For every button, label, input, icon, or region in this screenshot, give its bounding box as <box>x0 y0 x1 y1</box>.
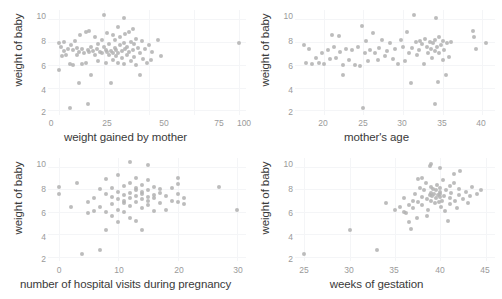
scatter-point <box>438 166 442 170</box>
panel-weeks-of-gestation: weight of baby 10 8 6 4 2 25 30 35 40 45… <box>251 150 502 299</box>
panel2-y-tick: 6 <box>277 62 293 70</box>
scatter-point <box>170 186 174 190</box>
scatter-point <box>411 206 415 210</box>
panel-weight-gained-by-mother: weight of baby 10 8 6 4 2 0 25 50 75 100… <box>0 0 251 150</box>
scatter-point <box>330 33 334 37</box>
scatterplot-matrix: weight of baby 10 8 6 4 2 0 25 50 75 100… <box>0 0 502 299</box>
panel1-y-tick: 2 <box>30 108 46 116</box>
scatter-point <box>104 228 108 232</box>
scatter-point <box>146 199 150 203</box>
scatter-point <box>75 46 79 50</box>
scatter-point <box>358 64 362 68</box>
scatter-point <box>109 81 113 85</box>
scatter-point <box>453 199 457 203</box>
scatter-point <box>140 190 144 194</box>
scatter-point <box>371 31 375 35</box>
scatter-point <box>110 214 114 218</box>
panel2-x-tick: 35 <box>430 119 454 128</box>
scatter-point <box>143 47 147 51</box>
scatter-point <box>128 191 132 195</box>
scatter-point <box>479 188 483 192</box>
panel1-x-tick: 0 <box>39 119 63 128</box>
panel1-y-axis-title: weight of baby <box>12 0 28 105</box>
scatter-point <box>344 47 348 51</box>
scatter-point <box>118 35 122 39</box>
gridline-horizontal <box>295 257 495 258</box>
panel4-y-tick: 10 <box>277 160 293 168</box>
scatter-point <box>341 63 345 67</box>
scatter-point <box>409 227 413 231</box>
scatter-point <box>471 29 475 33</box>
panel1-y-tick: 8 <box>30 37 46 45</box>
scatter-point <box>156 38 160 42</box>
scatter-point <box>122 210 126 214</box>
gridline-horizontal <box>48 110 246 111</box>
scatter-point <box>449 40 453 44</box>
scatter-point <box>420 203 424 207</box>
scatter-point <box>356 45 360 49</box>
scatter-point <box>152 196 156 200</box>
panel4-x-tick: 35 <box>382 266 406 275</box>
scatter-point <box>75 181 79 185</box>
scatter-point <box>107 42 111 46</box>
scatter-point <box>380 38 384 42</box>
gridline-horizontal <box>295 110 495 111</box>
scatter-point <box>128 196 132 200</box>
panel2-x-tick: 40 <box>469 119 493 128</box>
panel4-x-tick: 30 <box>337 266 361 275</box>
scatter-point <box>457 187 461 191</box>
scatter-point <box>472 35 476 39</box>
scatter-point <box>341 73 345 77</box>
scatter-point <box>430 56 434 60</box>
scatter-point <box>128 181 132 185</box>
gridline-horizontal <box>48 167 246 168</box>
scatter-point <box>122 199 126 203</box>
panel2-x-axis-title: mother's age <box>251 131 502 143</box>
scatter-point <box>446 219 450 223</box>
scatter-point <box>105 31 109 35</box>
scatter-point <box>116 25 120 29</box>
scatter-point <box>407 203 411 207</box>
scatter-point <box>326 48 330 52</box>
scatter-point <box>93 35 97 39</box>
panel4-x-tick: 25 <box>292 266 316 275</box>
scatter-point <box>414 40 418 44</box>
scatter-point <box>360 24 364 28</box>
panel1-y-tick: 6 <box>30 62 46 70</box>
scatter-point <box>122 193 126 197</box>
scatter-point <box>332 45 336 49</box>
gridline-vertical <box>194 10 195 115</box>
scatter-point <box>158 201 162 205</box>
scatter-point <box>393 47 397 51</box>
scatter-point <box>393 208 397 212</box>
scatter-point <box>134 63 138 67</box>
scatter-point <box>337 34 341 38</box>
scatter-point <box>111 58 115 62</box>
scatter-point <box>458 169 462 173</box>
panel1-plot-area <box>48 10 246 115</box>
panel3-x-axis-title: number of hospital visits during pregnan… <box>0 278 251 290</box>
scatter-point <box>84 61 88 65</box>
scatter-point <box>412 13 416 17</box>
scatter-point <box>449 191 453 195</box>
scatter-point <box>164 194 168 198</box>
scatter-point <box>338 50 342 54</box>
gridline-vertical <box>443 10 444 115</box>
gridline-vertical <box>486 158 487 261</box>
scatter-point <box>426 208 430 212</box>
scatter-point <box>176 182 180 186</box>
panel3-y-tick: 10 <box>30 160 46 168</box>
gridline-vertical <box>239 10 240 115</box>
scatter-point <box>116 61 120 65</box>
scatter-point <box>134 37 138 41</box>
panel1-x-tick: 25 <box>95 119 119 128</box>
scatter-point <box>441 58 445 62</box>
gridline-horizontal <box>295 167 495 168</box>
scatter-point <box>420 195 424 199</box>
scatter-point <box>96 42 100 46</box>
scatter-point <box>474 47 478 51</box>
panel4-x-tick: 45 <box>473 266 497 275</box>
scatter-point <box>66 47 70 51</box>
panel2-x-tick: 25 <box>351 119 375 128</box>
scatter-point <box>401 45 405 49</box>
